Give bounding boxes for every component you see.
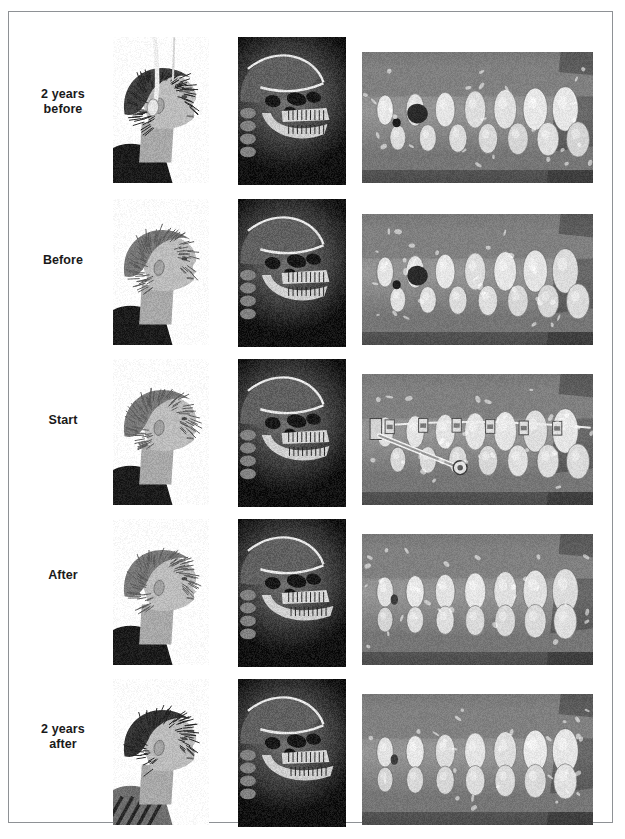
table-row: Start [9, 347, 612, 507]
table-row: 2 years after [9, 667, 612, 822]
panel-image [238, 359, 346, 507]
facial-profile-photograph [113, 199, 209, 345]
row-label-line1: Before [17, 253, 109, 268]
table-row: Before [9, 187, 612, 347]
row-label-start: Start [17, 413, 109, 428]
row-label-line1: Start [17, 413, 109, 428]
panel-image [113, 199, 209, 345]
facial-profile-photograph [113, 679, 209, 825]
panel-image [238, 37, 346, 185]
intraoral-lateral-photograph [362, 214, 593, 345]
row-label-line1: After [17, 568, 109, 583]
figure-root: 2 years before Before Start [0, 0, 625, 839]
panel-image [113, 519, 209, 665]
panel-image [113, 679, 209, 825]
intraoral-lateral-photograph [362, 52, 593, 183]
table-row: 2 years before [9, 25, 612, 187]
facial-profile-photograph [113, 519, 209, 665]
panel-image [238, 519, 346, 667]
row-label-after: After [17, 568, 109, 583]
row-label-line2: after [17, 737, 109, 752]
panel-image [362, 214, 593, 345]
lateral-cephalogram-radiograph [238, 679, 346, 827]
row-label-before: Before [17, 253, 109, 268]
facial-profile-photograph [113, 359, 209, 505]
panel-image [238, 199, 346, 347]
lateral-cephalogram-radiograph [238, 199, 346, 347]
lateral-cephalogram-radiograph [238, 37, 346, 185]
lateral-cephalogram-radiograph [238, 519, 346, 667]
lateral-cephalogram-radiograph [238, 359, 346, 507]
intraoral-lateral-photograph [362, 534, 593, 665]
table-row: After [9, 507, 612, 667]
row-label-two-years-before: 2 years before [17, 87, 109, 117]
intraoral-lateral-photograph [362, 694, 593, 825]
panel-image [113, 37, 209, 183]
panel-grid: 2 years before Before Start [9, 12, 612, 822]
row-label-line2: before [17, 102, 109, 117]
row-label-line1: 2 years [17, 722, 109, 737]
row-label-two-years-after: 2 years after [17, 722, 109, 752]
panel-image [238, 679, 346, 827]
row-label-line1: 2 years [17, 87, 109, 102]
panel-image [362, 694, 593, 825]
panel-image [362, 374, 593, 505]
intraoral-lateral-photograph [362, 374, 593, 505]
panel-image [113, 359, 209, 505]
panel-image [362, 534, 593, 665]
panel-image [362, 52, 593, 183]
facial-profile-photograph [113, 37, 209, 183]
